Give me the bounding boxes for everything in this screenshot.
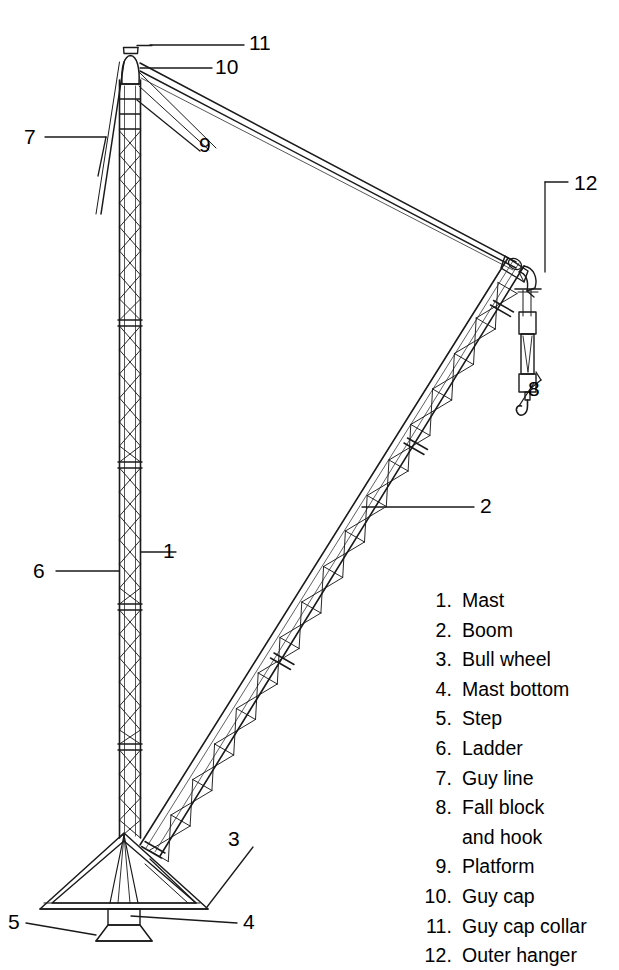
- callout-number-5: 5: [8, 911, 20, 932]
- legend-number-6: 6.: [418, 734, 452, 764]
- mast-structure: [118, 80, 142, 838]
- legend-item-8-continuation: and hook: [418, 823, 608, 853]
- mast-bottom-and-step: [96, 909, 152, 941]
- legend-label-8: Fall block: [452, 793, 544, 823]
- legend-number-1: 1.: [418, 586, 452, 616]
- legend-label-2: Boom: [452, 616, 513, 646]
- callout-number-2: 2: [480, 495, 492, 516]
- boom-tip-assembly: [501, 256, 541, 297]
- legend-label-11: Guy cap collar: [452, 912, 587, 942]
- legend-item-8: 8. Fall block: [418, 793, 608, 823]
- legend-label-12: Outer hanger: [452, 941, 577, 970]
- callout-number-1: 1: [163, 540, 175, 561]
- legend-item-1: 1. Mast: [418, 586, 608, 616]
- legend-label-1: Mast: [452, 586, 504, 616]
- bull-wheel-base: [40, 833, 208, 909]
- legend-number-5: 5.: [418, 704, 452, 734]
- callout-number-9: 9: [199, 134, 211, 155]
- legend-number-3: 3.: [418, 645, 452, 675]
- legend-label-4: Mast bottom: [452, 675, 569, 705]
- callout-number-4: 4: [243, 911, 255, 932]
- callout-number-10: 10: [215, 56, 238, 77]
- legend-number-12: 12.: [418, 941, 452, 970]
- topping-lift-cables: [140, 63, 516, 270]
- legend-label-7: Guy line: [452, 764, 534, 794]
- callout-number-8: 8: [528, 378, 540, 399]
- legend-number-11: 11.: [418, 912, 452, 942]
- legend-label-10: Guy cap: [452, 882, 535, 912]
- legend-label-5: Step: [452, 704, 502, 734]
- legend-item-10: 10. Guy cap: [418, 882, 608, 912]
- callout-number-3: 3: [228, 828, 240, 849]
- legend-label-3: Bull wheel: [452, 645, 551, 675]
- legend-item-12: 12. Outer hanger: [418, 941, 608, 970]
- legend-list: 1. Mast 2. Boom 3. Bull wheel 4. Mast bo…: [418, 586, 608, 970]
- callout-number-12: 12: [574, 172, 597, 193]
- legend-number-8: 8.: [418, 793, 452, 823]
- legend-item-4: 4. Mast bottom: [418, 675, 608, 705]
- legend-item-11: 11. Guy cap collar: [418, 912, 608, 942]
- legend-item-7: 7. Guy line: [418, 764, 608, 794]
- callout-number-6: 6: [33, 560, 45, 581]
- legend-number-10: 10.: [418, 882, 452, 912]
- legend-item-2: 2. Boom: [418, 616, 608, 646]
- legend-number-9: 9.: [418, 852, 452, 882]
- legend-item-3: 3. Bull wheel: [418, 645, 608, 675]
- legend-item-9: 9. Platform: [418, 852, 608, 882]
- guy-cap-assembly: [122, 46, 152, 85]
- legend-number-7: 7.: [418, 764, 452, 794]
- legend-label-8-line2: and hook: [418, 823, 542, 853]
- legend-item-5: 5. Step: [418, 704, 608, 734]
- legend-label-6: Ladder: [452, 734, 523, 764]
- legend-number-2: 2.: [418, 616, 452, 646]
- legend-number-4: 4.: [418, 675, 452, 705]
- callout-number-7: 7: [24, 126, 36, 147]
- legend-item-6: 6. Ladder: [418, 734, 608, 764]
- callout-number-11: 11: [249, 32, 271, 53]
- legend-label-9: Platform: [452, 852, 535, 882]
